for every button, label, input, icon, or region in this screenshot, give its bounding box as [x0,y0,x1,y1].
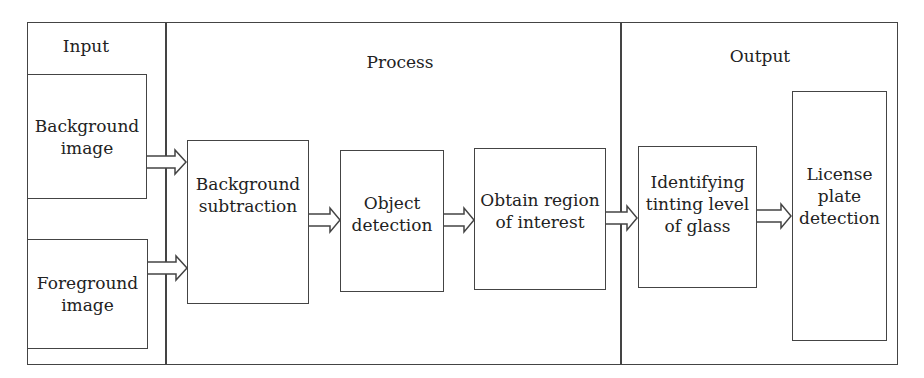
node-label: License plate detection [799,163,880,229]
section-title-output: Output [700,46,820,66]
node-object-detection: Object detection [340,150,444,292]
node-background-subtraction: Background subtraction [187,140,309,304]
section-title-input: Input [27,36,145,56]
node-label: Background image [35,115,139,159]
process-output-divider [620,22,622,365]
section-title-process: Process [340,52,460,72]
node-identifying-tint: Identifying tinting level of glass [638,146,757,288]
input-process-divider [165,22,167,365]
arrow-icon [148,256,188,280]
node-label: Identifying tinting level of glass [646,171,749,237]
arrow-icon [606,206,638,230]
arrow-icon [147,150,187,174]
node-label: Obtain region of interest [480,189,599,233]
outer-frame [27,22,898,365]
node-label: Background subtraction [196,173,300,217]
node-label: Object detection [352,192,433,236]
node-obtain-roi: Obtain region of interest [474,148,606,290]
arrow-icon [309,208,341,232]
arrow-icon [757,204,792,228]
node-foreground-image: Foreground image [27,239,148,349]
node-label: Foreground image [37,272,138,316]
node-background-image: Background image [27,74,147,199]
arrow-icon [444,208,475,232]
node-license-plate: License plate detection [792,91,887,341]
